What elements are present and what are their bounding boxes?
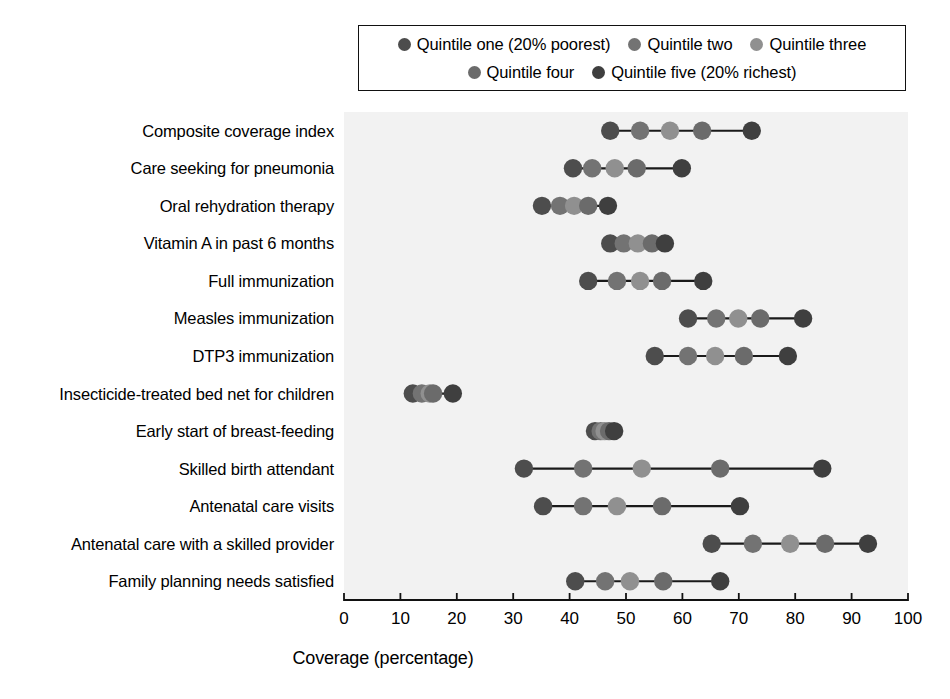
data-point-marker [673,159,691,177]
data-point-marker [599,197,617,215]
x-axis-tick-label: 40 [560,610,579,628]
data-point-marker [596,572,614,590]
plot-canvas [0,0,950,699]
data-point-marker [679,347,697,365]
x-axis-tick-label: 90 [842,610,861,628]
x-axis-tick-label: 10 [391,610,410,628]
data-point-marker [735,347,753,365]
data-point-marker [564,159,582,177]
data-point-marker [631,272,649,290]
data-point-marker [601,122,619,140]
data-point-marker [707,309,725,327]
data-point-marker [653,497,671,515]
data-point-marker [703,534,721,552]
data-row [566,572,729,590]
data-point-marker [424,384,442,402]
data-point-marker [779,347,797,365]
data-point-marker [694,272,712,290]
data-point-marker [813,459,831,477]
data-point-marker [661,122,679,140]
x-axis-tick-label: 70 [729,610,748,628]
x-axis-tick-label: 60 [673,610,692,628]
data-point-marker [605,422,623,440]
data-point-marker [653,272,671,290]
data-point-marker [711,572,729,590]
data-point-marker [744,534,762,552]
data-point-marker [751,309,769,327]
x-axis-tick-label: 0 [339,610,348,628]
data-point-marker [515,459,533,477]
x-axis-tick-label: 20 [447,610,466,628]
data-point-marker [711,459,729,477]
data-row [586,422,624,440]
data-point-marker [859,534,877,552]
data-point-marker [574,459,592,477]
x-axis [344,593,908,601]
chart-figure: Quintile one (20% poorest) Quintile two … [0,0,950,699]
data-point-marker [693,122,711,140]
x-axis-title: Coverage (percentage) [0,648,950,669]
data-point-marker [654,572,672,590]
data-row [564,159,691,177]
data-point-marker [606,159,624,177]
data-point-marker [731,497,749,515]
data-point-marker [579,197,597,215]
data-point-marker [706,347,724,365]
data-point-marker [444,384,462,402]
data-row [515,459,832,477]
data-point-marker [583,159,601,177]
x-axis-tick-label: 80 [786,610,805,628]
data-row [533,197,617,215]
data-point-marker [533,197,551,215]
data-point-marker [656,234,674,252]
data-point-marker [794,309,812,327]
data-point-marker [534,497,552,515]
x-axis-tick-label: 30 [504,610,523,628]
x-axis-tick-label: 50 [617,610,636,628]
data-point-marker [743,122,761,140]
data-row [601,122,761,140]
data-point-marker [633,459,651,477]
data-point-marker [608,272,626,290]
data-point-marker [574,497,592,515]
data-row [579,272,712,290]
data-row [404,384,462,402]
data-point-marker [816,534,834,552]
data-point-marker [631,122,649,140]
x-axis-title-text: Coverage (percentage) [293,648,474,669]
data-point-marker [679,309,697,327]
data-row [601,234,674,252]
data-point-marker [579,272,597,290]
data-row [534,497,749,515]
data-point-marker [628,159,646,177]
data-point-marker [781,534,799,552]
data-point-marker [729,309,747,327]
data-point-marker [608,497,626,515]
data-point-marker [621,572,639,590]
data-row [646,347,798,365]
x-axis-tick-label: 100 [894,610,922,628]
data-point-marker [646,347,664,365]
data-row [679,309,812,327]
data-row [703,534,878,552]
data-point-marker [566,572,584,590]
